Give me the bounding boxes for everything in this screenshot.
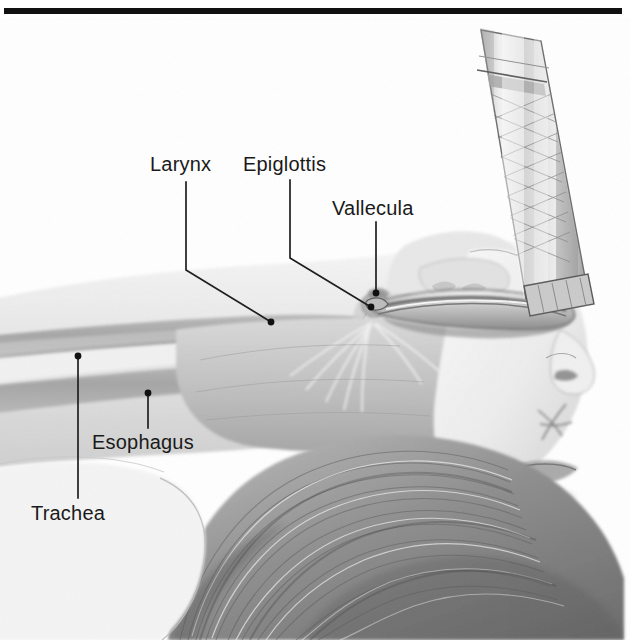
larynx-leader-dot [268,319,275,326]
trachea-leader-dot [75,353,82,360]
label-epiglottis: Epiglottis [243,154,326,174]
epiglottis-leader-dot [368,304,375,311]
label-vallecula: Vallecula [332,198,413,218]
vallecula-leader-dot [373,290,380,297]
paper-grain [0,18,630,640]
figure-container: Larynx Epiglottis Vallecula Esophagus Tr… [0,0,630,640]
label-larynx: Larynx [150,154,211,174]
illustration-canvas [0,0,630,640]
label-esophagus: Esophagus [92,432,194,452]
esophagus-leader-dot [145,390,152,397]
label-trachea: Trachea [31,503,105,523]
